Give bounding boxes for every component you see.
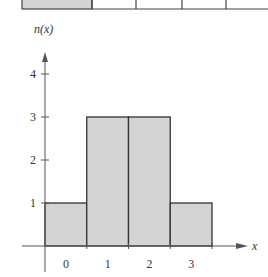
bar-1: [87, 117, 129, 246]
x-tick-label: 2: [146, 257, 152, 271]
x-tick-label: 0: [63, 257, 69, 271]
top-strip: [22, 0, 268, 9]
bars: [45, 117, 212, 246]
x-tick-labels: 0123: [63, 243, 212, 271]
y-tick-label: 2: [30, 153, 36, 167]
y-ticks: 1234: [30, 67, 49, 210]
x-axis-label: x: [251, 239, 258, 253]
bar-2: [129, 117, 171, 246]
y-tick-label: 1: [30, 196, 36, 210]
bar-0: [45, 203, 87, 246]
bar-3: [170, 203, 212, 246]
x-tick-label: 1: [105, 257, 111, 271]
histogram-chart: 1234 0123 n(x) x: [0, 0, 268, 277]
y-axis-label: n(x): [34, 22, 53, 36]
x-tick-label: 3: [188, 257, 194, 271]
y-tick-label: 4: [30, 67, 36, 81]
y-tick-label: 3: [30, 110, 36, 124]
